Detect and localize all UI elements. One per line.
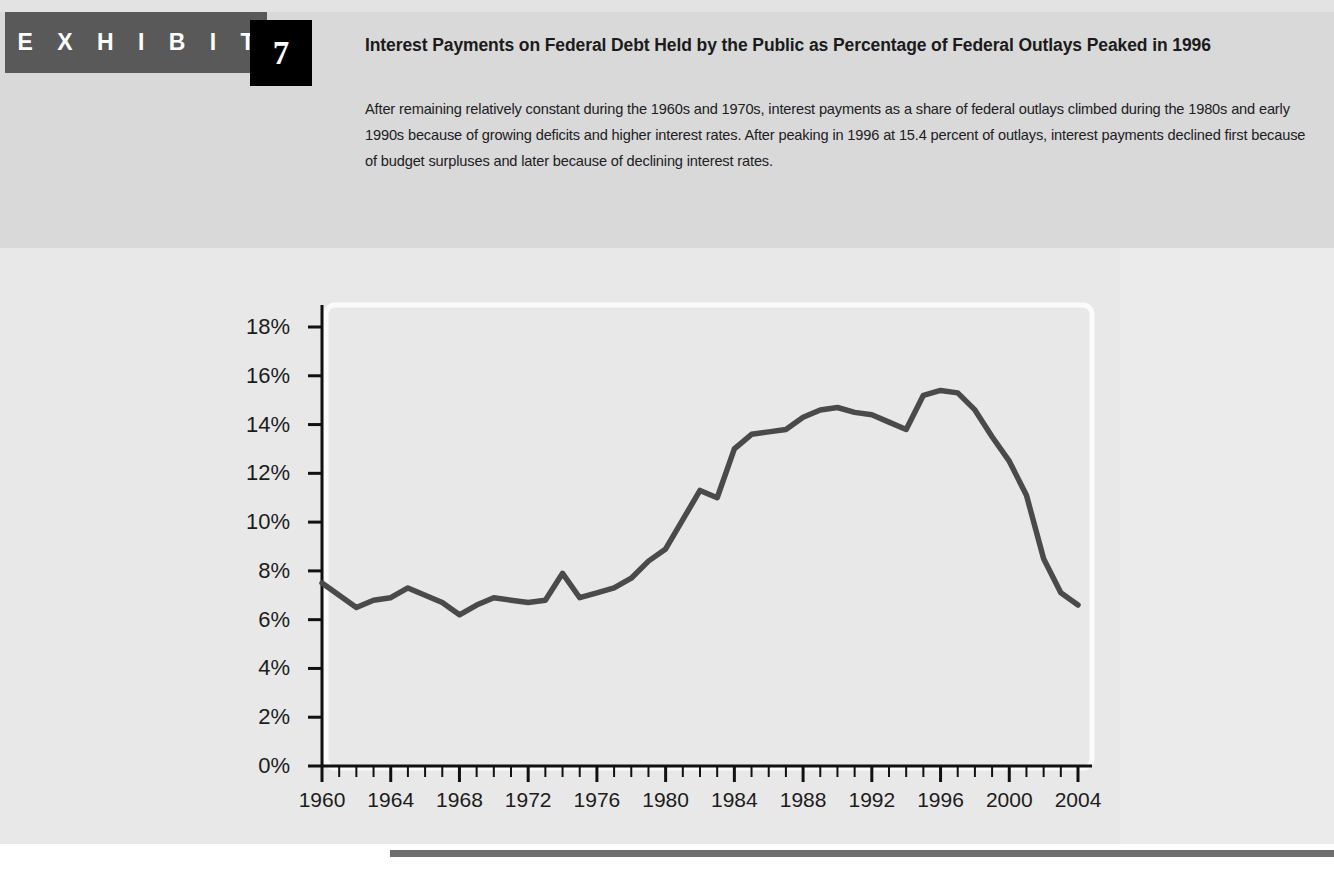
page-title: Interest Payments on Federal Debt Held b… bbox=[365, 33, 1295, 57]
plot-area-frame bbox=[326, 305, 1092, 768]
exhibit-label: E X H I B I T bbox=[5, 12, 267, 73]
page-description: After remaining relatively constant duri… bbox=[365, 96, 1310, 174]
exhibit-number: 7 bbox=[250, 20, 312, 86]
exhibit-number-box: 7 bbox=[250, 20, 312, 86]
exhibit-banner: E X H I B I T bbox=[5, 12, 267, 73]
line-chart: 0%2%4%6%8%10%12%14%16%18%196019641968197… bbox=[0, 250, 1334, 850]
chart-svg bbox=[0, 250, 1334, 850]
data-series-line bbox=[322, 390, 1078, 614]
header-top-highlight bbox=[0, 0, 1334, 12]
page-canvas: E X H I B I T 7 Interest Payments on Fed… bbox=[0, 0, 1334, 876]
footer-rule bbox=[390, 850, 1334, 857]
